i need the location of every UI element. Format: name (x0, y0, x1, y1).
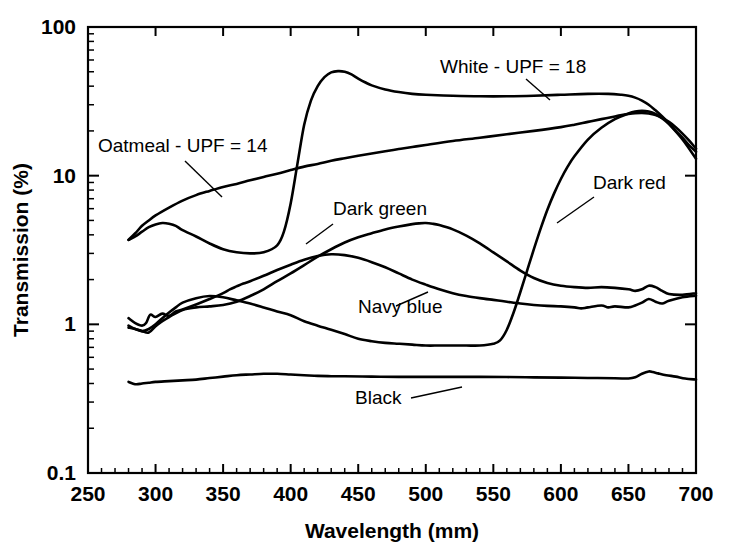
y-ticklabel-1: 1 (64, 312, 76, 335)
y-axis-title: Transmission (%) (9, 163, 32, 337)
x-ticklabel-450: 450 (341, 482, 376, 505)
x-ticklabel-700: 700 (678, 482, 713, 505)
x-ticklabel-650: 650 (611, 482, 646, 505)
oatmeal-annotation-label: Oatmeal - UPF = 14 (98, 135, 268, 156)
x-ticklabel-500: 500 (408, 482, 443, 505)
x-ticklabel-300: 300 (138, 482, 173, 505)
white-annotation-label: White - UPF = 18 (440, 56, 586, 77)
x-axis-title: Wavelength (mm) (305, 519, 479, 542)
x-ticklabel-600: 600 (543, 482, 578, 505)
y-ticklabel-100: 100 (41, 15, 76, 38)
x-ticklabel-350: 350 (206, 482, 241, 505)
navy-blue-annotation-label: Navy blue (358, 296, 443, 317)
y-ticklabel-10: 10 (53, 164, 76, 187)
x-ticklabel-250: 250 (70, 482, 105, 505)
y-ticklabel-0.1: 0.1 (47, 461, 77, 484)
figure-background (0, 0, 730, 559)
x-ticklabel-550: 550 (476, 482, 511, 505)
dark-red-annotation-label: Dark red (593, 172, 666, 193)
transmission-spectrum-figure: 250300350400450500550600650700 0.1110100… (0, 0, 730, 559)
dark-green-annotation-label: Dark green (333, 198, 427, 219)
chart-canvas: 250300350400450500550600650700 0.1110100… (0, 0, 730, 559)
x-ticklabel-400: 400 (273, 482, 308, 505)
black-annotation-label: Black (355, 387, 402, 408)
